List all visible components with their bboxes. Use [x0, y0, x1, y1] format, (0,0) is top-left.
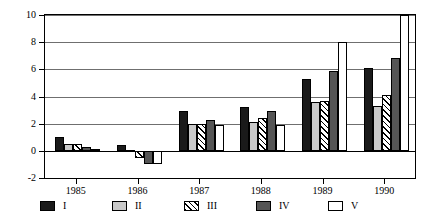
y-tick-label-0: 0 — [2, 146, 36, 156]
y-tick-label-4: 4 — [2, 92, 36, 102]
legend-label-V: V — [351, 201, 358, 211]
legend-item-IV[interactable]: IV — [250, 201, 322, 211]
y-tick-label-8: 8 — [2, 37, 36, 47]
legend-item-II[interactable]: II — [106, 201, 178, 211]
bar-1988-II — [249, 122, 258, 151]
x-tick-1989 — [323, 179, 324, 184]
bar-1987-II — [188, 124, 197, 151]
legend-swatch-V-icon — [328, 201, 343, 211]
chart-legend: IIIIIIIVV — [0, 196, 428, 216]
x-tick-1988 — [261, 179, 262, 184]
bar-1990-IV — [391, 58, 400, 150]
x-tick-label-1985: 1985 — [54, 185, 98, 196]
bar-1990-V — [400, 15, 409, 151]
x-tick-label-1987: 1987 — [177, 185, 221, 196]
y-tick-6 — [39, 69, 44, 70]
legend-swatch-IV-icon — [256, 201, 271, 211]
y-tick--2 — [39, 178, 44, 179]
bar-1990-II — [373, 106, 382, 151]
legend-label-IV: IV — [279, 201, 290, 211]
y-tick-label--2: -2 — [2, 173, 36, 183]
bar-1986-III — [135, 151, 144, 158]
legend-swatch-II-icon — [112, 201, 127, 211]
x-tick-label-1986: 1986 — [116, 185, 160, 196]
bar-1989-II — [311, 102, 320, 151]
legend-label-II: II — [135, 201, 142, 211]
x-tick-label-1988: 1988 — [239, 185, 283, 196]
bars-layer — [45, 15, 415, 178]
y-tick-label-2: 2 — [2, 119, 36, 129]
bar-1989-I — [302, 79, 311, 151]
bar-1989-V — [338, 42, 347, 151]
legend-item-I[interactable]: I — [34, 201, 106, 211]
legend-item-III[interactable]: III — [178, 201, 250, 211]
bar-1985-II — [64, 144, 73, 151]
y-tick-2 — [39, 124, 44, 125]
y-tick-label-10: 10 — [2, 10, 36, 20]
x-tick-1985 — [76, 179, 77, 184]
bar-1988-I — [240, 107, 249, 150]
bar-1990-I — [364, 68, 373, 151]
bar-1988-V — [276, 125, 285, 151]
bar-1985-III — [73, 144, 82, 151]
x-tick-label-1990: 1990 — [362, 185, 406, 196]
bar-1986-II — [126, 150, 135, 152]
bar-1985-I — [55, 137, 64, 151]
x-tick-1990 — [384, 179, 385, 184]
legend-swatch-I-icon — [40, 201, 55, 211]
y-tick-0 — [39, 151, 44, 152]
bar-1989-III — [320, 101, 329, 151]
x-tick-label-1989: 1989 — [301, 185, 345, 196]
y-tick-8 — [39, 42, 44, 43]
y-tick-10 — [39, 15, 44, 16]
legend-item-V[interactable]: V — [322, 201, 394, 211]
x-tick-1987 — [199, 179, 200, 184]
legend-swatch-III-icon — [184, 201, 199, 211]
bar-1988-III — [258, 118, 267, 151]
bar-1986-V — [153, 151, 162, 165]
x-tick-1986 — [138, 179, 139, 184]
bar-1986-IV — [144, 151, 153, 165]
bar-1986-I — [117, 145, 126, 150]
bar-chart: -20246810 198519861987198819891990 IIIII… — [0, 0, 428, 222]
bar-1987-I — [179, 111, 188, 150]
bar-1987-III — [197, 124, 206, 151]
y-tick-label-6: 6 — [2, 64, 36, 74]
bar-1990-III — [382, 95, 391, 151]
bar-1988-IV — [267, 111, 276, 150]
bar-1985-V — [91, 149, 100, 151]
y-tick-4 — [39, 97, 44, 98]
bar-1987-IV — [206, 120, 215, 151]
legend-label-III: III — [207, 201, 217, 211]
bar-1987-V — [215, 125, 224, 151]
bar-1985-IV — [82, 147, 91, 151]
bar-1989-IV — [329, 71, 338, 151]
legend-label-I: I — [63, 201, 66, 211]
y-axis-line — [44, 14, 45, 179]
